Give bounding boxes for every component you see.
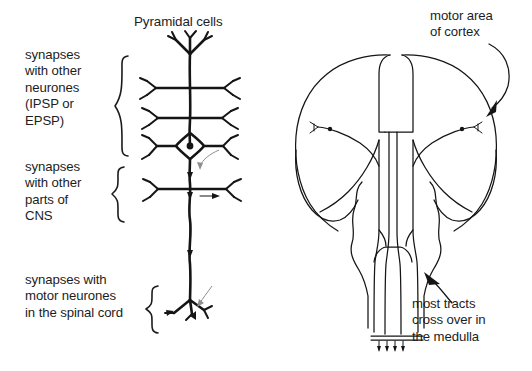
left-temporal-lobe <box>296 150 358 221</box>
pyramidal-tract-median-right <box>397 132 401 334</box>
axon-terminals <box>165 300 212 320</box>
cortical-neuron-left <box>310 122 379 166</box>
longitudinal-fissure-right <box>385 55 413 132</box>
arrow-to-medulla <box>424 272 452 303</box>
internal-capsule-left <box>320 140 379 212</box>
brainstem-wall-right-outer <box>424 182 441 328</box>
right-hemisphere-outline <box>402 55 496 231</box>
right-temporal-lobe <box>434 150 496 221</box>
spinal-cord-decussation <box>371 336 423 352</box>
pyramidal-cell-drawing <box>140 31 241 320</box>
soma-dot-right <box>460 127 464 131</box>
internal-capsule-right <box>413 140 472 212</box>
nucleus <box>187 143 194 150</box>
cortical-neuron-right <box>413 122 482 166</box>
brainstem-tract-right <box>413 140 418 332</box>
brace-synapses-other-neurones <box>115 56 128 156</box>
dendrite-row-4-collateral <box>143 179 241 201</box>
longitudinal-fissure-left <box>379 55 390 132</box>
medulla-bulge-left <box>379 230 386 246</box>
brace-synapses-other-cns <box>112 167 124 222</box>
medulla-bulge-right <box>406 230 413 246</box>
brace-synapses-motor-neurones <box>146 286 158 333</box>
medulla-cap <box>374 247 412 262</box>
synapse-arrow-faint-2 <box>200 286 212 303</box>
axon-arrow-2 <box>187 182 193 200</box>
diagram-canvas <box>0 0 532 371</box>
soma-dot-left <box>328 127 332 131</box>
brainstem-tract-left <box>374 140 379 332</box>
apical-tuft <box>168 31 212 54</box>
left-hemisphere-outline <box>296 55 390 231</box>
brain-coronal-section <box>296 44 510 352</box>
synapse-arrow-faint-1 <box>200 150 219 166</box>
axon-arrow-1 <box>187 164 193 180</box>
biology-figure: Pyramidal cells synapses with other neur… <box>0 0 532 371</box>
axon-arrow-3 <box>187 222 193 258</box>
pyramidal-tract-median-left <box>385 132 389 334</box>
brainstem-wall-left-outer <box>351 182 368 328</box>
